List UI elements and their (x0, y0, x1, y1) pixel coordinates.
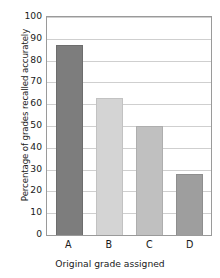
y-tick-label: 50 (16, 120, 42, 129)
x-axis-tick-labels: A B C D (46, 239, 212, 250)
y-tick-label: 100 (16, 11, 42, 20)
bar-slot (129, 17, 169, 235)
y-tick-label: 60 (16, 99, 42, 108)
x-tick-label-c: C (129, 239, 170, 250)
y-tick-label: 80 (16, 55, 42, 64)
bars-layer (47, 17, 211, 235)
y-tick-label: 40 (16, 142, 42, 151)
y-tick-label: 30 (16, 164, 42, 173)
bar-slot (89, 17, 129, 235)
bar-c[interactable] (136, 126, 163, 235)
bar-slot (49, 17, 89, 235)
y-tick-label: 10 (16, 208, 42, 217)
y-tick-label: 20 (16, 186, 42, 195)
y-tick-label: 90 (16, 33, 42, 42)
x-tick-label-a: A (48, 239, 89, 250)
bar-d[interactable] (176, 174, 203, 235)
x-axis-title: Original grade assigned (0, 258, 220, 269)
bar-b[interactable] (96, 98, 123, 235)
bar-a[interactable] (56, 45, 83, 235)
y-axis-tick-labels: 100 90 80 70 60 50 40 30 20 10 0 (16, 16, 42, 236)
bar-chart-figure: Percentage of grades recalled accurately… (0, 0, 220, 278)
y-tick-label: 70 (16, 77, 42, 86)
x-tick-label-b: B (89, 239, 130, 250)
y-tick-label: 0 (16, 229, 42, 238)
x-tick-label-d: D (170, 239, 211, 250)
plot-area (46, 16, 212, 236)
bar-slot (169, 17, 209, 235)
